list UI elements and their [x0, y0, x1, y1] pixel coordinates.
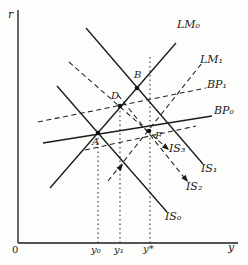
- curve-label-is2: IS₂: [186, 181, 202, 193]
- curve-label-is0: IS₀: [165, 211, 181, 223]
- curve-label-bp1: BP₁: [207, 79, 227, 91]
- islm-bp-diagram: r 0 y y₀ y₁ y* LM₀ LM₁ BP₁ BP₀ IS₃ IS₁ I…: [0, 0, 248, 265]
- curve-label-lm1: LM₁: [200, 54, 223, 66]
- r-axis-label: r: [8, 9, 13, 21]
- point-label-d: D: [111, 90, 119, 101]
- curve-label-bp0: BP₀: [214, 105, 234, 117]
- tick-ystar-label: y*: [143, 243, 154, 254]
- curve-label-is3: IS₃: [169, 143, 185, 155]
- tick-y0-label: y₀: [91, 244, 101, 255]
- tick-y1-label: y₁: [114, 244, 124, 255]
- origin-label: 0: [12, 244, 18, 256]
- point-label-a: A: [92, 136, 99, 147]
- curve-label-is1: IS₁: [201, 163, 217, 175]
- point-label-f: F: [155, 130, 162, 141]
- curve-label-lm0: LM₀: [177, 19, 200, 31]
- point-label-b: B: [134, 69, 141, 80]
- y-axis-label: y: [228, 242, 234, 254]
- diagram-svg: [0, 0, 248, 265]
